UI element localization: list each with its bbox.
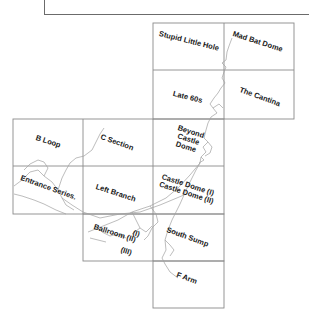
- grid-lines: [13, 23, 294, 308]
